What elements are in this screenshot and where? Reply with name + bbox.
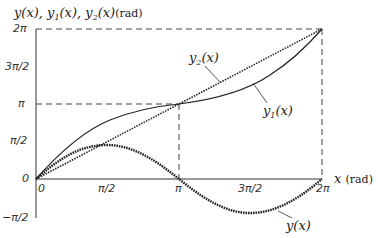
y-tick-pi2: π/2 (10, 134, 27, 147)
label-y1: y1(x) (263, 103, 293, 120)
y-axis-unit: (rad) (115, 7, 142, 20)
y-axis-title-part1: y(x), y (14, 5, 54, 20)
chart-canvas (0, 0, 378, 238)
x-tick-pi: π (175, 182, 182, 195)
label-y2-arg: (x) (201, 50, 218, 65)
y-tick-pi: π (18, 97, 25, 110)
leader-lines (205, 66, 292, 218)
y-tick-2pi: 2π (13, 22, 27, 35)
x-tick-3pi2: 3π/2 (238, 182, 262, 195)
y-axis-title-part3: (x) (98, 5, 115, 20)
x-tick-pi2: π/2 (98, 182, 115, 195)
y-axis-title-part2: (x), y (60, 5, 93, 20)
label-y2: y2(x) (189, 50, 219, 67)
x-axis-title-var: x (334, 171, 341, 186)
y-axis-title: y(x), y1(x), y2(x)(rad) (14, 5, 143, 22)
y-tick-0: 0 (22, 172, 29, 185)
x-axis-unit: (rad) (345, 173, 372, 186)
x-axis-title: x (rad) (334, 171, 373, 186)
y-tick-3pi2: 3π/2 (5, 60, 29, 73)
x-tick-2pi: 2π (316, 182, 330, 195)
x-tick-0: 0 (38, 182, 45, 195)
label-y: y(x) (286, 218, 311, 233)
y-tick-minus-pi2: −π/2 (2, 211, 29, 224)
label-y1-arg: (x) (275, 103, 292, 118)
